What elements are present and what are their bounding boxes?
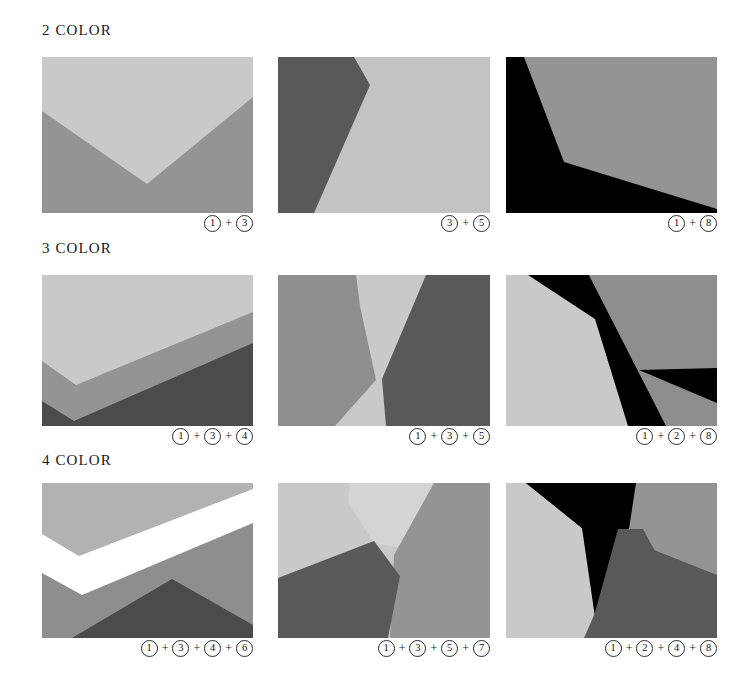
panel-3color-2-art xyxy=(278,275,490,426)
circled-number: 3 xyxy=(204,428,221,445)
circled-number: 8 xyxy=(700,640,717,657)
plus-symbol: + xyxy=(461,216,470,231)
caption-3color-1: 1 + 3 + 4 xyxy=(120,427,253,445)
circled-number: 5 xyxy=(473,215,490,232)
circled-number: 1 xyxy=(605,640,622,657)
plus-symbol: + xyxy=(688,429,697,444)
circled-number: 2 xyxy=(636,640,653,657)
plus-symbol: + xyxy=(224,641,233,656)
row-heading-3-color: 3 COLOR xyxy=(42,240,112,257)
plus-symbol: + xyxy=(688,641,697,656)
plus-symbol: + xyxy=(224,429,233,444)
row-heading-4-color: 4 COLOR xyxy=(42,452,112,469)
caption-4color-2: 1 + 3 + 5 + 7 xyxy=(325,639,490,657)
panel-4color-1 xyxy=(42,483,253,638)
circled-number: 6 xyxy=(236,640,253,657)
circled-number: 2 xyxy=(668,428,685,445)
circled-number: 3 xyxy=(441,428,458,445)
panel-2color-1 xyxy=(42,57,253,213)
circled-number: 4 xyxy=(668,640,685,657)
panel-4color-2 xyxy=(278,483,490,638)
panel-4color-1-art xyxy=(42,483,253,638)
caption-4color-3: 1 + 2 + 4 + 8 xyxy=(552,639,717,657)
caption-4color-1: 1 + 3 + 4 + 6 xyxy=(88,639,253,657)
circled-number: 3 xyxy=(441,215,458,232)
panel-3color-1-art xyxy=(42,275,253,426)
plus-symbol: + xyxy=(429,429,438,444)
caption-2color-2: 3 + 5 xyxy=(390,214,490,232)
circled-number: 1 xyxy=(636,428,653,445)
color-combination-plate: 2 COLOR 1 + 3 3 + 5 1 + 8 3 COLOR xyxy=(0,0,754,691)
plus-symbol: + xyxy=(429,641,438,656)
panel-4color-3 xyxy=(506,483,717,638)
circled-number: 4 xyxy=(204,640,221,657)
circled-number: 1 xyxy=(172,428,189,445)
panel-4color-2-art xyxy=(278,483,490,638)
circled-number: 1 xyxy=(668,215,685,232)
circled-number: 3 xyxy=(172,640,189,657)
caption-3color-2: 1 + 3 + 5 xyxy=(357,427,490,445)
circled-number: 3 xyxy=(409,640,426,657)
circled-number: 8 xyxy=(700,428,717,445)
circled-number: 1 xyxy=(409,428,426,445)
plus-symbol: + xyxy=(192,429,201,444)
plus-symbol: + xyxy=(688,216,697,231)
circled-number: 1 xyxy=(204,215,221,232)
circled-number: 7 xyxy=(473,640,490,657)
circled-number: 5 xyxy=(473,428,490,445)
panel-3color-3-art xyxy=(506,275,717,426)
plus-symbol: + xyxy=(656,641,665,656)
panel-3color-1 xyxy=(42,275,253,426)
panel-3color-3 xyxy=(506,275,717,426)
panel-2color-2-art xyxy=(278,57,490,213)
panel-4color-3-art xyxy=(506,483,717,638)
panel-2color-1-art xyxy=(42,57,253,213)
circled-number: 1 xyxy=(378,640,395,657)
panel-3color-2 xyxy=(278,275,490,426)
circled-number: 1 xyxy=(141,640,158,657)
circled-number: 4 xyxy=(236,428,253,445)
plus-symbol: + xyxy=(224,216,233,231)
caption-2color-3: 1 + 8 xyxy=(617,214,717,232)
panel-2color-3-art xyxy=(506,57,717,213)
caption-2color-1: 1 + 3 xyxy=(153,214,253,232)
row-heading-2-color: 2 COLOR xyxy=(42,22,112,39)
plus-symbol: + xyxy=(461,641,470,656)
panel-2color-2 xyxy=(278,57,490,213)
plus-symbol: + xyxy=(461,429,470,444)
circled-number: 3 xyxy=(236,215,253,232)
plus-symbol: + xyxy=(625,641,634,656)
plus-symbol: + xyxy=(656,429,665,444)
panel-2color-3 xyxy=(506,57,717,213)
plus-symbol: + xyxy=(161,641,170,656)
circled-number: 5 xyxy=(441,640,458,657)
plus-symbol: + xyxy=(398,641,407,656)
plus-symbol: + xyxy=(192,641,201,656)
circled-number: 8 xyxy=(700,215,717,232)
caption-3color-3: 1 + 2 + 8 xyxy=(584,427,717,445)
